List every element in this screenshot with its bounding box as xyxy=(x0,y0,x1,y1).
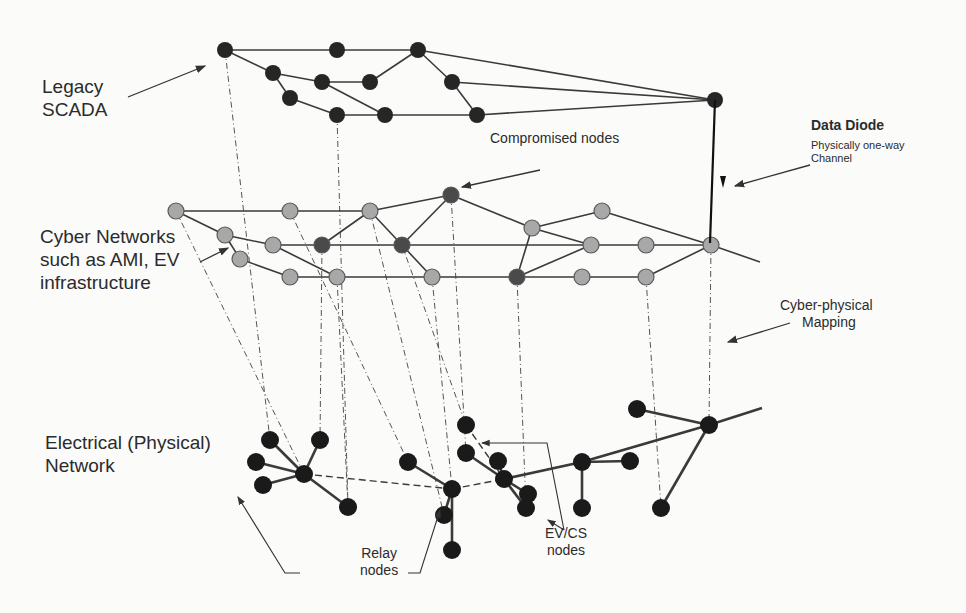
cyber-node xyxy=(232,251,248,267)
evcs-nodes-label: EV/CS nodes xyxy=(545,525,587,559)
scada-edge xyxy=(452,82,715,100)
physical-node xyxy=(295,465,313,483)
physical-node xyxy=(495,470,513,488)
cyber-edge xyxy=(370,195,451,211)
cyber-networks-line2: such as AMI, EV xyxy=(40,249,179,272)
scada-node xyxy=(469,107,485,123)
cyber-node xyxy=(362,203,378,219)
cyber-physical-mapping-lines xyxy=(176,50,711,515)
cyber-edge xyxy=(322,211,370,245)
annotation-arrows xyxy=(128,66,810,573)
scada-node xyxy=(329,42,345,58)
physical-node xyxy=(443,480,461,498)
cyber-physical-mapping-label: Cyber-physical Mapping xyxy=(780,297,873,331)
cyber-node xyxy=(574,269,590,285)
evcs-nodes-line2: nodes xyxy=(545,542,587,559)
mapping-line1: Cyber-physical xyxy=(780,297,873,314)
scada-node xyxy=(217,42,233,58)
cyber-edge xyxy=(451,195,532,228)
physical-node xyxy=(247,453,265,471)
physical-edge xyxy=(637,409,709,425)
legacy-scada-label: Legacy SCADA xyxy=(42,76,107,122)
physical-node xyxy=(443,541,461,559)
mapping-line2: Mapping xyxy=(780,314,873,331)
mapping-line xyxy=(432,277,452,489)
physical-node xyxy=(261,431,279,449)
cyber-node xyxy=(424,269,440,285)
data-diode-title: Data Diode xyxy=(811,117,884,134)
scada-edge xyxy=(477,100,715,115)
cyber-physical-diagram: Legacy SCADA Cyber Networks such as AMI,… xyxy=(0,0,966,613)
cyber-node xyxy=(583,237,599,253)
scada-node xyxy=(362,74,378,90)
cyber-node xyxy=(282,269,298,285)
cyber-node xyxy=(524,220,540,236)
mapping-line xyxy=(290,211,408,462)
cyber-node xyxy=(638,269,654,285)
diode-direction-icon xyxy=(720,176,726,188)
scada-edge xyxy=(418,50,715,100)
mapping-line xyxy=(337,115,348,507)
physical-node xyxy=(628,400,646,418)
evcs-nodes-line1: EV/CS xyxy=(545,525,587,542)
scada-node xyxy=(444,74,460,90)
scada-node xyxy=(265,65,281,81)
relay-nodes-label: Relay nodes xyxy=(360,545,398,579)
electrical-network-line1: Electrical (Physical) xyxy=(45,432,211,455)
compromised-nodes-label: Compromised nodes xyxy=(490,130,619,147)
mapping-line xyxy=(709,245,711,425)
scada-node xyxy=(314,74,330,90)
physical-node xyxy=(700,416,718,434)
scada-node xyxy=(410,42,426,58)
scada-node xyxy=(282,90,298,106)
cyber-networks-label: Cyber Networks such as AMI, EV infrastru… xyxy=(40,226,179,294)
data-diode-subtitle: Physically one-way Channel xyxy=(811,139,905,165)
scada-node xyxy=(377,107,393,123)
physical-edge xyxy=(504,462,582,479)
cyber-edge xyxy=(532,211,602,228)
cyber-node xyxy=(282,203,298,219)
compromised-node xyxy=(314,237,330,253)
data-diode-sub-line2: Channel xyxy=(811,152,905,165)
physical-node xyxy=(311,431,329,449)
electrical-network-label: Electrical (Physical) Network xyxy=(45,432,211,478)
physical-node xyxy=(519,485,537,503)
physical-node xyxy=(489,452,507,470)
relay-nodes-line1: Relay xyxy=(360,545,398,562)
cyber-node xyxy=(594,203,610,219)
physical-node xyxy=(457,444,475,462)
legacy-scada-line1: Legacy xyxy=(42,76,107,99)
relay-nodes-line2: nodes xyxy=(360,562,398,579)
physical-node xyxy=(621,452,639,470)
cyber-node xyxy=(329,269,345,285)
cyber-edge xyxy=(646,245,711,277)
mapping-line xyxy=(451,195,466,453)
compromised-node xyxy=(443,187,459,203)
cyber-networks-line3: infrastructure xyxy=(40,272,179,295)
mapping-line xyxy=(320,245,322,440)
physical-node xyxy=(435,506,453,524)
legacy-scada-line2: SCADA xyxy=(42,99,107,122)
cyber-networks-line1: Cyber Networks xyxy=(40,226,179,249)
cyber-node xyxy=(217,227,233,243)
compromised-node xyxy=(509,269,525,285)
physical-node xyxy=(573,499,591,517)
cyber-edge xyxy=(532,228,591,245)
cyber-node xyxy=(168,203,184,219)
cyber-node xyxy=(638,237,654,253)
scada-edge xyxy=(370,50,418,82)
physical-node xyxy=(652,499,670,517)
physical-node xyxy=(399,453,417,471)
physical-node xyxy=(339,498,357,516)
cyber-edge xyxy=(602,211,711,245)
network-nodes xyxy=(168,42,723,559)
physical-node xyxy=(457,416,475,434)
mapping-line xyxy=(646,277,661,508)
physical-node xyxy=(573,453,591,471)
data-diode-sub-line1: Physically one-way xyxy=(811,139,905,152)
network-edges xyxy=(176,50,762,550)
physical-node xyxy=(254,476,272,494)
electrical-network-line2: Network xyxy=(45,455,211,478)
scada-node xyxy=(329,107,345,123)
compromised-node xyxy=(394,237,410,253)
